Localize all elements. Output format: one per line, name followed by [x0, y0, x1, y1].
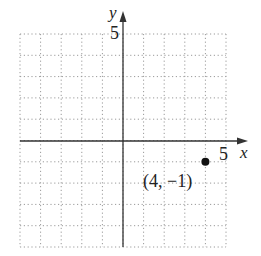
- data-point: [201, 158, 209, 166]
- y-axis-arrow-icon: [120, 11, 127, 22]
- x-tick-label: 5: [219, 145, 228, 163]
- point-label: (4, −1): [143, 172, 192, 190]
- coordinate-plane: [0, 0, 261, 256]
- y-axis-label: y: [109, 4, 117, 21]
- x-axis-label: x: [240, 144, 248, 161]
- y-tick-label: 5: [110, 24, 119, 42]
